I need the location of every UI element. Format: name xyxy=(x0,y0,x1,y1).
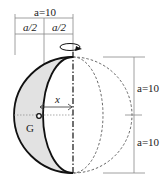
label-centroid: G xyxy=(26,122,34,134)
label-top-width: a=10 xyxy=(34,6,57,18)
label-half-left: a/2 xyxy=(23,21,38,33)
label-x-distance: x xyxy=(54,93,60,105)
dashed-outer-hemisphere xyxy=(73,57,132,173)
dashed-inner-ellipse xyxy=(73,57,103,173)
label-radius-upper: a=10 xyxy=(137,82,160,94)
right-dimension xyxy=(103,57,145,173)
label-radius-lower: a=10 xyxy=(137,136,160,148)
label-half-right: a/2 xyxy=(52,21,67,33)
diagram-canvas: a=10 a/2 a/2 a=10 a=10 x G xyxy=(0,0,168,187)
centroid-marker xyxy=(37,114,42,119)
rotation-arrow-icon xyxy=(60,44,82,52)
